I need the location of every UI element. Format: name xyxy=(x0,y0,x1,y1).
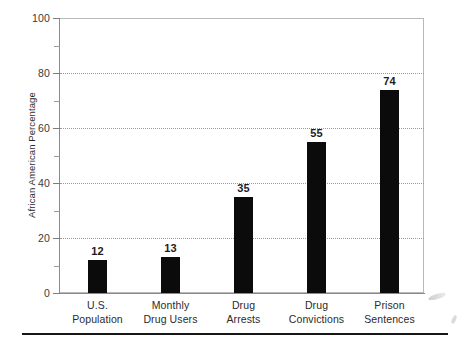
bar-value-label: 55 xyxy=(297,128,337,139)
bar xyxy=(88,260,107,293)
bar-value-label: 12 xyxy=(78,246,118,257)
y-minor-tick-10 xyxy=(54,266,60,267)
y-tick-label-40: 40 xyxy=(38,178,50,188)
y-minor-tick-70 xyxy=(54,101,60,102)
y-tick-label-20: 20 xyxy=(38,233,50,243)
y-tick-40 xyxy=(53,183,60,184)
scan-artifact-speck xyxy=(450,315,457,325)
gridline-80 xyxy=(60,73,424,74)
x-category-label: PrisonSentences xyxy=(342,299,438,326)
x-axis-line xyxy=(59,293,425,294)
y-tick-label-80: 80 xyxy=(38,68,50,78)
page-divider-rule xyxy=(22,333,448,335)
bar xyxy=(161,257,180,293)
gridline-60 xyxy=(60,128,424,129)
y-tick-0 xyxy=(53,293,60,294)
bar xyxy=(234,197,253,293)
y-tick-60 xyxy=(53,128,60,129)
y-tick-label-100: 100 xyxy=(32,13,50,23)
y-tick-20 xyxy=(53,238,60,239)
y-tick-80 xyxy=(53,73,60,74)
y-minor-tick-90 xyxy=(54,46,60,47)
y-tick-label-60: 60 xyxy=(38,123,50,133)
y-tick-label-0: 0 xyxy=(44,288,50,298)
x-category-label-line: Sentences xyxy=(342,313,438,327)
bar xyxy=(380,90,399,294)
bar-chart-figure: 020406080100 African American Percentage… xyxy=(0,0,471,349)
x-category-label-line: Prison xyxy=(342,299,438,313)
y-minor-tick-50 xyxy=(54,156,60,157)
y-minor-tick-30 xyxy=(54,211,60,212)
y-tick-100 xyxy=(53,18,60,19)
bar-value-label: 74 xyxy=(370,76,410,87)
bar-value-label: 13 xyxy=(151,243,191,254)
bar-value-label: 35 xyxy=(224,183,264,194)
bar xyxy=(307,142,326,293)
y-axis-title: African American Percentage xyxy=(26,55,37,255)
